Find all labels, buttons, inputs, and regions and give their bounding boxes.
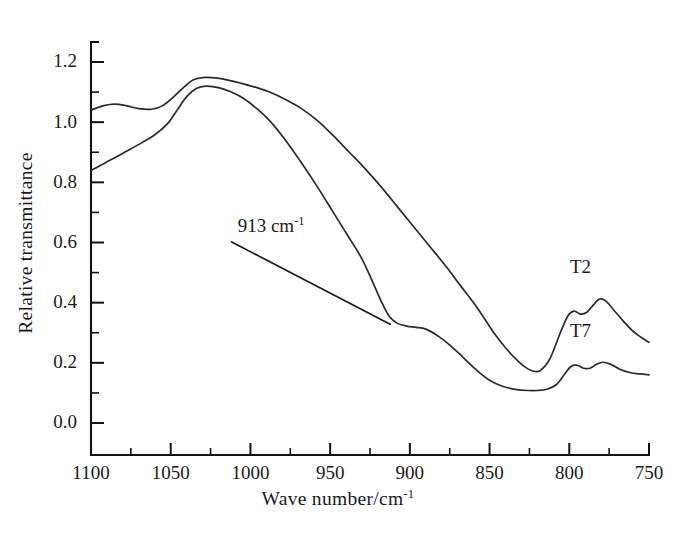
chart-figure: 0.00.20.40.60.81.01.2 110010501000950900…	[0, 0, 690, 538]
x-tick-label: 750	[635, 462, 664, 483]
series-label-t2: T2	[570, 256, 591, 277]
spectrum-plot: 0.00.20.40.60.81.01.2 110010501000950900…	[0, 0, 690, 538]
y-tick-label: 1.2	[53, 50, 77, 71]
annotation-leader-line	[232, 242, 390, 324]
curve-t2	[91, 77, 649, 371]
y-tick-label: 0.8	[53, 171, 77, 192]
axis-ticks	[91, 62, 649, 455]
y-tick-label: 0.2	[53, 351, 77, 372]
series-label-t7: T7	[570, 320, 591, 341]
x-tick-label: 850	[475, 462, 504, 483]
curve-t7	[91, 86, 649, 391]
y-tick-label: 0.4	[53, 291, 77, 312]
x-tick-labels: 110010501000950900850800750	[72, 462, 663, 483]
x-tick-label: 800	[555, 462, 584, 483]
axis-spines	[91, 42, 649, 455]
x-tick-label: 1050	[152, 462, 190, 483]
y-tick-label: 1.0	[53, 111, 77, 132]
axes	[91, 42, 649, 455]
x-tick-label: 1100	[72, 462, 109, 483]
annotation-label: 913 cm-1	[238, 214, 305, 236]
series-labels: T2T7	[570, 256, 591, 342]
data-curves	[91, 77, 649, 390]
y-axis-title: Relative transmittance	[15, 152, 36, 334]
y-tick-label: 0.6	[53, 231, 77, 252]
x-axis-title: Wave number/cm-1	[262, 487, 415, 509]
y-tick-label: 0.0	[53, 411, 77, 432]
x-tick-label: 900	[396, 462, 425, 483]
x-tick-label: 950	[316, 462, 345, 483]
x-tick-label: 1000	[231, 462, 269, 483]
y-tick-labels: 0.00.20.40.60.81.01.2	[53, 50, 77, 432]
